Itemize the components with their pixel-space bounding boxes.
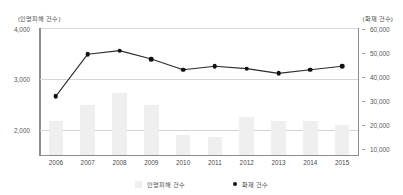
data-point[interactable] (181, 68, 186, 73)
data-point[interactable] (276, 71, 281, 76)
right-axis-tickmark (362, 149, 365, 150)
right-axis-tick: 40,000 (370, 74, 390, 81)
x-axis-tick: 2015 (335, 159, 349, 166)
x-axis-tick: 2014 (303, 159, 317, 166)
plot-area (40, 29, 358, 155)
line-series-fires (40, 29, 358, 155)
legend-item-casualties[interactable]: 인명피해 건수 (135, 180, 185, 189)
data-point[interactable] (149, 57, 154, 62)
x-axis-tick: 2010 (176, 159, 190, 166)
right-axis-tickmark (362, 53, 365, 54)
x-axis-tick: 2008 (112, 159, 126, 166)
right-axis-tickmark (362, 125, 365, 126)
left-axis-caption: (인명피해 건수) (18, 14, 61, 23)
right-axis: 10,00020,00030,00040,00050,00060,000 (362, 29, 402, 155)
chart-container: (인명피해 건수) (화재 건수) 2,0003,0004,000 10,000… (0, 0, 403, 195)
data-point[interactable] (85, 52, 90, 57)
left-axis-tick: 4,000 (14, 26, 30, 33)
dot-marker-icon (233, 182, 237, 186)
data-point[interactable] (54, 94, 59, 99)
data-point[interactable] (213, 64, 218, 69)
right-axis-tickmark (362, 101, 365, 102)
right-axis-tickmark (362, 77, 365, 78)
right-axis-tick: 30,000 (370, 98, 390, 105)
legend-item-fires[interactable]: 화재 건수 (233, 180, 268, 189)
chart-legend: 인명피해 건수 화재 건수 (0, 176, 403, 192)
left-axis-tick: 2,000 (14, 126, 30, 133)
x-axis-tick: 2009 (144, 159, 158, 166)
right-axis-tick: 50,000 (370, 50, 390, 57)
x-axis-tick: 2007 (81, 159, 95, 166)
left-axis: 2,0003,0004,000 (0, 29, 36, 155)
right-axis-tick: 10,000 (370, 146, 390, 153)
left-axis-tick: 3,000 (14, 76, 30, 83)
x-axis-tick: 2011 (208, 159, 222, 166)
x-axis: 2006200720082009201020112012201320142015 (40, 157, 358, 171)
legend-label-casualties: 인명피해 건수 (147, 180, 185, 189)
x-axis-tick: 2012 (240, 159, 254, 166)
right-axis-caption: (화재 건수) (362, 14, 393, 23)
right-axis-tickmark (362, 29, 365, 30)
x-axis-tick: 2006 (49, 159, 63, 166)
bar-swatch-icon (135, 181, 142, 188)
right-axis-tick: 60,000 (370, 26, 390, 33)
legend-label-fires: 화재 건수 (242, 180, 268, 189)
data-point[interactable] (308, 68, 313, 73)
data-point[interactable] (117, 48, 122, 53)
data-point[interactable] (244, 66, 249, 71)
right-axis-tick: 20,000 (370, 122, 390, 129)
data-point[interactable] (340, 64, 345, 69)
x-axis-tick: 2013 (271, 159, 285, 166)
